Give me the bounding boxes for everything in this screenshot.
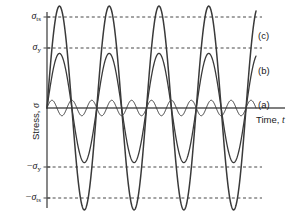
x-axis-symbol: t	[282, 114, 285, 125]
tick-label-neg-sigma-y: −σy	[27, 161, 41, 173]
y-axis-symbol: σ	[30, 103, 41, 108]
tick-label-sigma-ts: σts	[31, 11, 41, 23]
y-axis-label-text: Stress,	[30, 111, 41, 141]
stress-time-fatigue-chart: σts σy −σy −σts (a) (b) (c) Stress, σ Ti…	[0, 0, 304, 216]
tick-label-neg-sigma-ts: −σts	[26, 192, 41, 204]
x-axis-label-text: Time,	[256, 114, 279, 125]
curve-label-a: (a)	[258, 100, 270, 110]
y-axis-label: Stress, σ	[30, 87, 41, 157]
tick-label-sigma-y: σy	[33, 42, 41, 54]
curve-label-c: (c)	[258, 31, 269, 41]
y-axis-label-wrap: Stress, σ	[22, 90, 36, 160]
x-axis-label: Time, t	[256, 114, 285, 125]
curve-label-b: (b)	[258, 66, 270, 76]
